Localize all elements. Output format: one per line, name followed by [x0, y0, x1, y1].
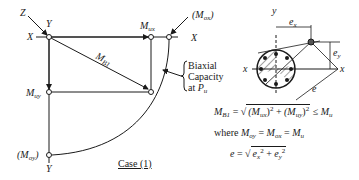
ey-label: ey [333, 48, 341, 60]
x-axis-label-right: X [191, 33, 197, 43]
x-axis-label-left: X [27, 32, 33, 42]
equation-e: e = √ex2 + ey2 [230, 146, 286, 161]
cs-x-label-right: x [340, 64, 344, 74]
equation-mb1: MB1 = √(Mux)2 + (Muy)2 ≤ Mu [214, 104, 333, 119]
m-ox-label: (Mox) [192, 10, 214, 22]
y-axis-label-top: Y [46, 19, 52, 29]
case-label: Case (1) [118, 158, 152, 169]
equation-where: where Moy = Mox = Mu [214, 128, 304, 140]
biaxial-capacity-note: Biaxial Capacity at Pu [188, 60, 224, 97]
z-axis-label: Z [20, 8, 26, 18]
m-ux-label: Mux [140, 21, 155, 33]
interaction-diagram [0, 0, 359, 180]
m-ox-leader [171, 17, 188, 34]
cs-y-label: y [272, 6, 276, 16]
column-cross-section [252, 25, 340, 100]
brace [181, 61, 187, 91]
m-uy-label: Muy [26, 88, 41, 100]
y-axis-label-bottom: Y [46, 164, 52, 174]
ex-label: ex [289, 17, 297, 29]
m-oy-label: (Moy) [17, 150, 39, 162]
cs-x-label-left: x [243, 64, 247, 74]
e-label: e [312, 84, 316, 94]
